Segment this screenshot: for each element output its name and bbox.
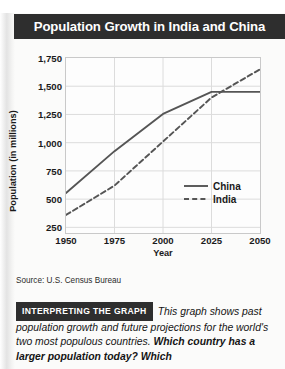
page-title: Population Growth in India and China	[34, 19, 266, 34]
y-tick-label: 250	[16, 222, 62, 233]
y-tick-label: 500	[16, 194, 62, 205]
y-tick-label: 1,500	[16, 81, 62, 92]
x-tick-label: 2050	[240, 235, 280, 246]
legend-label-china: China	[213, 181, 241, 192]
y-tick-label: 1,250	[16, 109, 62, 120]
y-tick-label: 1,000	[16, 137, 62, 148]
source-note: Source: U.S. Census Bureau	[16, 276, 121, 285]
chart-svg: ChinaIndia	[66, 58, 260, 233]
legend-label-india: India	[213, 194, 237, 205]
chart-title-banner: Population Growth in India and China	[14, 14, 285, 39]
x-tick-label: 1950	[46, 235, 86, 246]
gridlines	[66, 58, 260, 233]
page-top-margin	[0, 0, 285, 13]
figure-page: Population Growth in India and China Pop…	[0, 0, 285, 369]
chart-container: Population (in millions) 2505007501,0001…	[14, 41, 285, 255]
x-tick-label: 2025	[192, 235, 232, 246]
x-tick-label: 1975	[95, 235, 135, 246]
interpreting-the-graph-caption: INTERPRETING THE GRAPHThis graph shows p…	[16, 302, 274, 364]
x-tick-label: 2000	[143, 235, 183, 246]
y-axis-ticks: 2505007501,0001,2501,5001,750	[14, 41, 62, 234]
y-tick-label: 1,750	[16, 53, 62, 64]
chart-legend: ChinaIndia	[184, 181, 241, 205]
plot-area: ChinaIndia	[65, 57, 261, 234]
y-tick-label: 750	[16, 165, 62, 176]
x-axis-label: Year	[65, 248, 261, 258]
caption-badge: INTERPRETING THE GRAPH	[16, 302, 153, 321]
